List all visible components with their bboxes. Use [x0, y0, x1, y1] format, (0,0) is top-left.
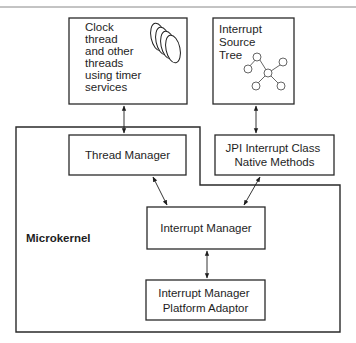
connector-jpi-to-interrupt-manager [244, 177, 260, 205]
thread-manager-box: Thread Manager [69, 135, 186, 175]
thread-manager-text: Thread Manager [85, 149, 170, 161]
interrupt-manager-text: Interrupt Manager [160, 222, 252, 234]
platform-adaptor-box: Interrupt Manager Platform Adaptor [146, 280, 265, 320]
interrupt-source-tree-box: Interrupt Source Tree [213, 18, 294, 104]
clock-threads-box: Clock thread and other threads using tim… [69, 18, 187, 104]
microkernel-architecture-diagram: Microkernel Clock thread and other threa… [0, 0, 356, 343]
connector-thread-manager-to-interrupt-manager [153, 177, 167, 205]
microkernel-label: Microkernel [26, 232, 91, 244]
jpi-native-methods-box: JPI Interrupt Class Native Methods [215, 135, 334, 175]
interrupt-manager-box: Interrupt Manager [147, 207, 265, 249]
